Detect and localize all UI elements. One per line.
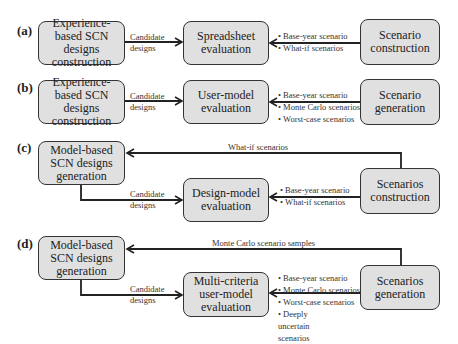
candidate-designs-label-d: Candidate designs	[130, 284, 164, 306]
box-label: Design-model evaluation	[186, 187, 266, 213]
label-line: Candidate	[130, 91, 164, 102]
experience-based-construction-box-a: Experience-based SCN designs constructio…	[38, 21, 125, 65]
model-based-generation-box-c: Model-based SCN designs generation	[38, 141, 125, 185]
scenario-item: What-if scenarios	[280, 196, 350, 208]
scenario-item: Base-year scenario	[280, 184, 350, 196]
label-line: Candidate	[130, 284, 164, 295]
spreadsheet-evaluation-box: Spreadsheet evaluation	[183, 21, 269, 65]
multi-criteria-evaluation-box: Multi-criteria user-model evaluation	[183, 272, 269, 317]
user-model-evaluation-box: User-model evaluation	[183, 80, 269, 124]
box-label: Model-based SCN designs generation	[41, 239, 122, 278]
panel-label-c: (c)	[17, 140, 31, 156]
scenarios-generation-box-d: Scenarios generation	[360, 265, 440, 310]
scenario-list-c: Base-year scenario What-if scenarios	[280, 184, 350, 208]
experience-based-construction-box-b: Experience-based SCN designs constructio…	[38, 80, 125, 124]
candidate-designs-label-b: Candidate designs	[130, 91, 164, 113]
feedback-label-d: Monte Carlo scenario samples	[212, 238, 315, 249]
candidate-designs-label-a: Candidate designs	[130, 32, 164, 54]
scenario-item: Base-year scenario	[278, 30, 348, 42]
box-label: Spreadsheet evaluation	[186, 30, 266, 56]
scenario-construction-box-a: Scenario construction	[360, 19, 440, 65]
scenario-item: Deeply uncertain scenarios	[278, 308, 340, 344]
box-label: Scenario generation	[363, 89, 437, 115]
candidate-designs-label-c: Candidate designs	[130, 189, 164, 211]
box-label: Experience-based SCN designs constructio…	[41, 76, 122, 128]
panel-label-d: (d)	[17, 236, 33, 252]
label-line: Candidate	[130, 32, 164, 43]
scenario-list-a: Base-year scenario What-if scenarios	[278, 30, 348, 54]
design-model-evaluation-box: Design-model evaluation	[183, 178, 269, 222]
box-label: Experience-based SCN designs constructio…	[41, 17, 122, 69]
label-line: designs	[130, 43, 164, 54]
scenario-item: Base-year scenario	[278, 89, 360, 101]
scenario-item: Worst-case scenarios	[278, 296, 360, 308]
scenario-item: Monte Carlo scenarios	[278, 101, 360, 113]
label-line: Candidate	[130, 189, 164, 200]
model-based-generation-box-d: Model-based SCN designs generation	[38, 236, 125, 280]
scenario-list-b: Base-year scenario Monte Carlo scenarios…	[278, 89, 360, 125]
box-label: Scenarios generation	[363, 275, 437, 301]
box-label: Model-based SCN designs generation	[41, 144, 122, 183]
scenario-generation-box-b: Scenario generation	[360, 79, 440, 125]
scenario-item: Monte Carlo scenarios	[278, 284, 360, 296]
box-label: User-model evaluation	[186, 89, 266, 115]
label-line: designs	[130, 102, 164, 113]
box-label: Scenarios construction	[363, 178, 437, 204]
scenario-list-d: Base-year scenario Monte Carlo scenarios…	[278, 272, 360, 344]
scenarios-construction-box-c: Scenarios construction	[360, 168, 440, 214]
box-label: Scenario construction	[363, 29, 437, 55]
panel-label-b: (b)	[17, 80, 33, 96]
scenario-item: Worst-case scenarios	[278, 113, 360, 125]
scenario-item: Base-year scenario	[278, 272, 360, 284]
panel-label-a: (a)	[17, 23, 32, 39]
scenario-item: What-if scenarios	[278, 42, 348, 54]
label-line: designs	[130, 295, 164, 306]
box-label: Multi-criteria user-model evaluation	[186, 275, 266, 314]
label-line: designs	[130, 200, 164, 211]
feedback-label-c: What-if scenarios	[228, 142, 288, 153]
